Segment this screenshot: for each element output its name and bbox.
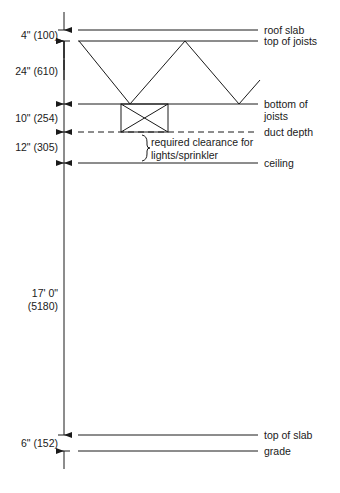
label-top-of-slab: top of slab — [264, 429, 312, 441]
label-ceiling: ceiling — [264, 157, 294, 169]
label-duct-depth: duct depth — [264, 126, 313, 138]
label-bottom-of-joists-1: bottom of — [264, 98, 308, 110]
annotation-line1: required clearance for — [151, 136, 253, 148]
dim-17ft-line1: 17' 0" — [32, 287, 58, 300]
label-top-of-joists: top of joists — [264, 35, 317, 47]
label-bottom-of-joists-2: joists — [264, 110, 288, 122]
dim-6in: 6" (152) — [21, 437, 58, 450]
dim-12in: 12" (305) — [15, 141, 58, 154]
clearance-brace — [142, 135, 150, 161]
dim-4in: 4" (100) — [21, 29, 58, 42]
dim-24in: 24" (610) — [15, 65, 58, 78]
joist-web — [79, 41, 260, 104]
dim-10in: 10" (254) — [15, 112, 58, 125]
label-grade: grade — [264, 445, 291, 457]
dim-17ft-line2: (5180) — [28, 300, 58, 313]
annotation-line2: lights/sprinkler — [151, 149, 218, 161]
